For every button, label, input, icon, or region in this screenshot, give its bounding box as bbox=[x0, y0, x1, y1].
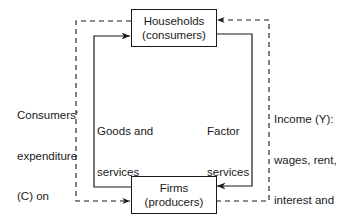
firms-subtitle: (producers) bbox=[145, 195, 204, 209]
firms-title: Firms bbox=[160, 181, 189, 195]
households-subtitle: (consumers) bbox=[142, 28, 206, 42]
income-label: Income (Y): wages, rent, interest and pr… bbox=[274, 86, 337, 222]
factor-services-label: Factor services bbox=[207, 98, 249, 193]
households-title: Households bbox=[144, 14, 205, 28]
goods-services-label: Goods and services bbox=[97, 98, 153, 193]
expenditure-label: Consumers' expenditure (C) on goods and … bbox=[17, 82, 78, 222]
households-node: Households (consumers) bbox=[131, 9, 217, 47]
